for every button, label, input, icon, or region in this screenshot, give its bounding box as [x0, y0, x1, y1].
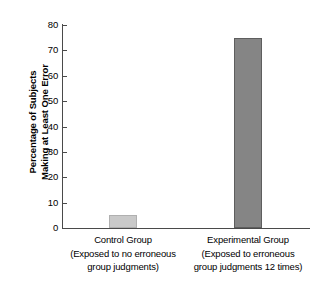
y-tick-mark	[63, 101, 67, 102]
y-tick-mark	[63, 203, 67, 204]
bar-control-group	[109, 215, 137, 228]
y-tick-mark	[63, 76, 67, 77]
x-axis-line	[62, 228, 310, 229]
category-sublabel-experimental-line-1: (Exposed to erroneous	[173, 247, 319, 261]
y-tick-mark	[63, 25, 67, 26]
y-tick-label: 70	[36, 44, 58, 55]
y-tick-label: 30	[36, 146, 58, 157]
y-tick-label: 20	[36, 171, 58, 182]
y-tick-label: 0	[36, 222, 58, 233]
bar-chart: Percentage of Subjects Making at Least O…	[0, 0, 319, 289]
y-tick-label: 60	[36, 70, 58, 81]
y-tick-mark	[63, 127, 67, 128]
category-name-experimental: Experimental Group	[173, 233, 319, 247]
y-tick-mark	[63, 177, 67, 178]
bar-experimental-group	[234, 38, 262, 228]
x-axis-label-experimental-group: Experimental Group (Exposed to erroneous…	[173, 233, 319, 274]
y-tick-label: 80	[36, 19, 58, 30]
y-tick-label: 10	[36, 197, 58, 208]
y-tick-label: 50	[36, 95, 58, 106]
y-tick-mark	[63, 50, 67, 51]
y-tick-mark	[63, 228, 67, 229]
y-tick-mark	[63, 152, 67, 153]
y-tick-label: 40	[36, 121, 58, 132]
category-sublabel-experimental-line-2: group judgments 12 times)	[173, 260, 319, 274]
